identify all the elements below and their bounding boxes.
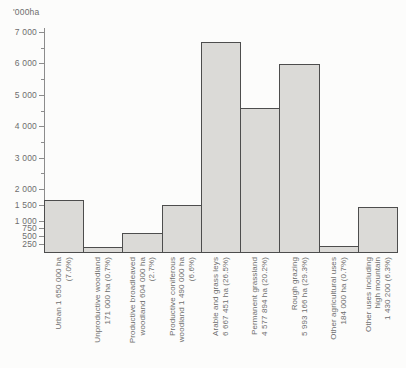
x-category-label: Other agricultural uses 184 000 ha (0.7%…: [319, 257, 359, 365]
y-tick-major: [39, 189, 44, 190]
x-category-label-text: Productive broadleaved woodland 604 000 …: [128, 257, 157, 365]
x-category-label-text: Rough grazing 5 993 166 ha (29.3%): [290, 257, 309, 365]
x-category-label: Unproductive woodland 171 000 ha (0.7%): [83, 257, 123, 365]
y-tick-label: 2 000: [0, 184, 37, 194]
y-tick-label: 5 000: [0, 90, 37, 100]
y-tick-label: 250: [0, 239, 37, 249]
x-axis-line: [44, 252, 398, 253]
x-category-label: Urban 1 650 000 ha (7.0%): [44, 257, 84, 365]
y-tick-minor: [41, 173, 44, 174]
x-category-label: Productive broadleaved woodland 604 000 …: [122, 257, 163, 365]
y-tick-label: 3 000: [0, 153, 37, 163]
y-tick-label: 6 000: [0, 58, 37, 68]
x-category-label: Permanent grassland 4 577 894 ha (20.2%): [240, 257, 280, 365]
x-category-label-text: Urban 1 650 000 ha (7.0%): [54, 257, 73, 365]
y-tick-major: [39, 32, 44, 33]
bar: [240, 108, 280, 253]
x-category-label: Productive coniferous woodland 1 490 000…: [162, 257, 202, 365]
x-category-label: Arable and grass leys 6 667 451 ha (26.5…: [201, 257, 241, 365]
x-category-label-text: Other uses including high mountain 1 430…: [364, 257, 393, 365]
bar: [279, 64, 320, 253]
y-tick-label: 4 000: [0, 121, 37, 131]
x-category-label-text: Productive coniferous woodland 1 490 000…: [168, 257, 197, 365]
bar: [201, 42, 241, 253]
y-tick-major: [39, 95, 44, 96]
y-tick-major: [39, 63, 44, 64]
y-tick-minor: [41, 79, 44, 80]
x-category-label: Other uses including high mountain 1 430…: [358, 257, 398, 365]
y-tick-minor: [41, 48, 44, 49]
y-tick-label: 7 000: [0, 27, 37, 37]
y-tick-minor: [41, 111, 44, 112]
x-category-label-text: Permanent grassland 4 577 894 ha (20.2%): [250, 257, 269, 365]
x-category-label: Rough grazing 5 993 166 ha (29.3%): [279, 257, 320, 365]
bar: [122, 233, 163, 253]
bar: [162, 205, 202, 253]
x-category-label-text: Other agricultural uses 184 000 ha (0.7%…: [329, 257, 348, 365]
x-category-label-text: Arable and grass leys 6 667 451 ha (26.5…: [211, 257, 230, 365]
y-tick-minor: [41, 142, 44, 143]
x-category-label-text: Unproductive woodland 171 000 ha (0.7%): [93, 257, 112, 365]
y-axis-unit-label: '000ha: [13, 7, 39, 17]
y-tick-major: [39, 158, 44, 159]
y-tick-label: 1 500: [0, 200, 37, 210]
bar: [358, 207, 398, 253]
land-use-bar-chart: '000ha 7 0006 0005 0004 0003 0002 0001 5…: [0, 0, 406, 368]
y-tick-major: [39, 126, 44, 127]
bar: [44, 200, 84, 253]
